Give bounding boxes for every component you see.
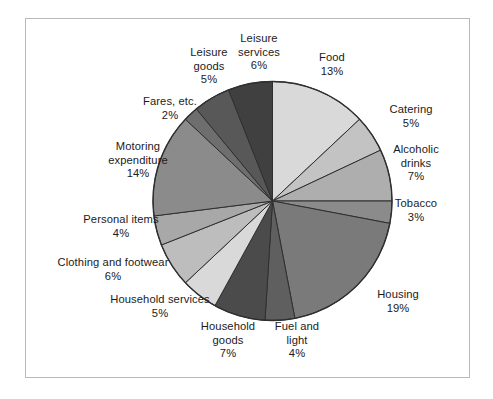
- pie-label-clothing-and-footwear-value: 6%: [58, 270, 169, 284]
- pie-label-household-goods: Household goods 7%: [201, 320, 255, 361]
- pie-label-catering-name: Catering: [389, 103, 432, 117]
- pie-label-leisure-services: Leisure services 6%: [238, 32, 280, 73]
- pie-label-tobacco: Tobacco 3%: [395, 197, 437, 224]
- pie-label-household-goods-name2: goods: [201, 334, 255, 348]
- pie-label-leisure-goods-name2: goods: [190, 60, 227, 74]
- pie-label-household-services: Household services 5%: [110, 293, 209, 320]
- pie-label-fares: Fares, etc. 2%: [143, 95, 197, 122]
- pie-label-clothing-and-footwear-name: Clothing and footwear: [58, 256, 169, 270]
- pie-label-leisure-goods: Leisure goods 5%: [190, 46, 227, 87]
- pie-label-alcoholic-drinks-name1: Alcoholic: [393, 143, 439, 157]
- pie-label-housing-name: Housing: [377, 288, 419, 302]
- pie-label-household-goods-value: 7%: [201, 347, 255, 361]
- pie-label-personal-items: Personal items 4%: [83, 213, 158, 240]
- pie-label-catering-value: 5%: [389, 117, 432, 131]
- pie-label-fares-name: Fares, etc.: [143, 95, 197, 109]
- pie-label-housing-value: 19%: [377, 302, 419, 316]
- pie-label-motoring-expenditure-name1: Motoring: [108, 140, 168, 154]
- pie-label-fuel-and-light-name1: Fuel and: [275, 320, 319, 334]
- pie-label-motoring-expenditure: Motoring expenditure 14%: [108, 140, 168, 181]
- pie-label-leisure-goods-name1: Leisure: [190, 46, 227, 60]
- pie-label-catering: Catering 5%: [389, 103, 432, 130]
- pie-label-alcoholic-drinks-name2: drinks: [393, 157, 439, 171]
- pie-label-motoring-expenditure-name2: expenditure: [108, 154, 168, 168]
- pie-label-tobacco-value: 3%: [395, 211, 437, 225]
- pie-label-fuel-and-light-value: 4%: [275, 347, 319, 361]
- pie-label-food-value: 13%: [319, 65, 345, 79]
- pie-label-housing: Housing 19%: [377, 288, 419, 315]
- pie-label-household-services-name: Household services: [110, 293, 209, 307]
- pie-label-clothing-and-footwear: Clothing and footwear 6%: [58, 256, 169, 283]
- pie-label-fuel-and-light: Fuel and light 4%: [275, 320, 319, 361]
- pie-label-alcoholic-drinks: Alcoholic drinks 7%: [393, 143, 439, 184]
- pie-label-food-name: Food: [319, 51, 345, 65]
- pie-label-food: Food 13%: [319, 51, 345, 78]
- pie-label-personal-items-name: Personal items: [83, 213, 158, 227]
- pie-label-household-services-value: 5%: [110, 307, 209, 321]
- pie-label-leisure-services-name1: Leisure: [238, 32, 280, 46]
- pie-label-leisure-services-value: 6%: [238, 59, 280, 73]
- pie-label-alcoholic-drinks-value: 7%: [393, 170, 439, 184]
- pie-label-household-goods-name1: Household: [201, 320, 255, 334]
- pie-label-fares-value: 2%: [143, 109, 197, 123]
- pie-label-leisure-services-name2: services: [238, 46, 280, 60]
- pie-label-leisure-goods-value: 5%: [190, 73, 227, 87]
- pie-label-fuel-and-light-name2: light: [275, 334, 319, 348]
- pie-label-personal-items-value: 4%: [83, 227, 158, 241]
- pie-label-motoring-expenditure-value: 14%: [108, 167, 168, 181]
- pie-label-tobacco-name: Tobacco: [395, 197, 437, 211]
